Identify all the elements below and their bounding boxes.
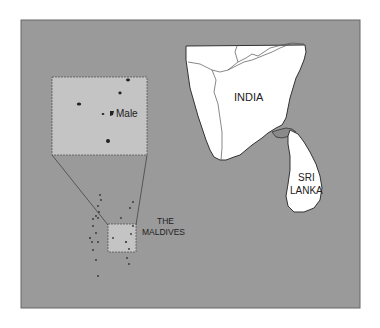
label-india: INDIA xyxy=(234,91,264,103)
maldives-location-map: Male INDIA SRI LANKA THE MALDIVES xyxy=(0,0,380,328)
label-sri-lanka-line2: LANKA xyxy=(290,185,323,196)
label-male: Male xyxy=(116,108,138,119)
label-maldives-line2: MALDIVES xyxy=(142,227,185,237)
label-sri-lanka-line1: SRI xyxy=(298,172,315,183)
label-maldives-line1: THE xyxy=(157,216,174,226)
